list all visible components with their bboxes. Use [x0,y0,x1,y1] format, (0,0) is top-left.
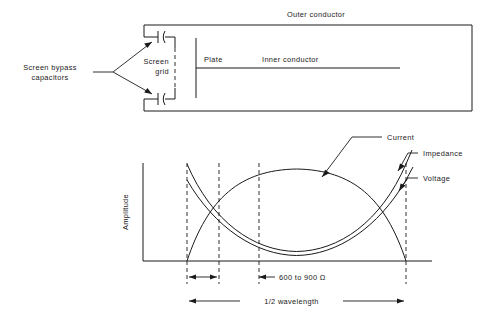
screen-grid-label-line1: Screen [143,57,169,66]
leader-line-current [322,137,382,177]
impedance-curve [187,164,406,252]
voltage-label: Voltage [423,174,450,183]
capacitor-top-lead [165,37,175,48]
screen-bypass-capacitor-bottom [158,88,175,105]
leader-arrowhead-bottom [144,88,152,94]
outer-conductor-label: Outer conductor [287,10,345,19]
impedance-range-label: 600 to 900 Ω [279,273,326,282]
capacitor-top-plate-curved [163,31,165,43]
leader-arrowhead-current [322,170,330,177]
amplitude-axis-label: Amplitude [121,194,130,230]
capacitor-bottom-plate-curved [163,93,165,105]
impedance-dimension-left [189,275,217,280]
screen-bypass-capacitors-label-line1: Screen bypass [23,63,76,72]
wavelength-dimension: 1/2 wavelength [189,297,404,306]
wavelength-dimension-arrow-end [397,299,404,304]
impedance-label: Impedance [423,149,463,158]
leader-arrowhead-impedance [398,164,405,172]
plate-label: Plate [204,55,223,64]
screen-bypass-capacitor-top [158,31,175,48]
coaxial-tank-diagram: Outer conductor Plate Inner conductor Sc… [23,10,472,111]
impedance-curve-upper-extension [406,150,412,164]
impedance-dimension-left-arrow-start [189,275,196,280]
leader-arrowhead-voltage [399,183,406,191]
wavelength-dimension-arrow-start [189,299,196,304]
screen-bypass-capacitors-label-line2: capacitors [31,73,68,82]
impedance-dimension-center: 600 to 900 Ω [259,273,326,282]
voltage-curve [187,180,406,256]
standing-wave-plot: Amplitude Current Impedance Voltage [121,133,463,306]
current-label: Current [387,133,414,142]
capacitor-bottom-lead [165,88,175,99]
screen-grid-label-line2: grid [155,67,169,76]
impedance-dimension-center-arrow [259,275,266,280]
impedance-dimension-left-arrow-end [210,275,217,280]
wavelength-label: 1/2 wavelength [264,297,319,306]
outer-conductor-left-stub-bottom [144,99,158,111]
inner-conductor-label: Inner conductor [262,55,319,64]
outer-conductor-left-stub-top [144,25,158,37]
figure-canvas: Outer conductor Plate Inner conductor Sc… [0,0,491,324]
